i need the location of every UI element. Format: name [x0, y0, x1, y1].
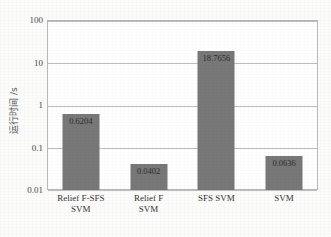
- bar-chart-figure: 运行时间 /s 1001010.10.01 0.62040.040218.765…: [0, 0, 331, 237]
- bar-slot: 0.0402: [115, 20, 183, 190]
- x-axis-tick-line1: SVM: [274, 193, 294, 203]
- y-axis-tick-label: 1: [0, 101, 43, 110]
- x-axis-tick-label: SVM: [250, 193, 318, 204]
- x-axis-tick-line2: SVM: [47, 204, 115, 215]
- bar[interactable]: [198, 51, 235, 190]
- x-axis-tick-line1: Relief F: [134, 193, 163, 203]
- y-axis-tick-label: 0.1: [0, 144, 43, 153]
- bar-slot: 0.0636: [250, 20, 318, 190]
- bar-series: 0.62040.040218.76560.0636: [47, 20, 318, 190]
- bar-value-label: 0.0636: [272, 159, 295, 168]
- x-axis-tick-label: Relief FSVM: [115, 193, 183, 215]
- bar-value-label: 18.7656: [203, 54, 231, 63]
- x-axis-tick-label: SFS SVM: [183, 193, 251, 204]
- gridline: [48, 190, 317, 191]
- x-axis-tick-label: Relief F-SFSSVM: [47, 193, 115, 215]
- bar-value-label: 0.0402: [137, 167, 160, 176]
- y-axis-tick-label: 100: [0, 16, 43, 25]
- x-axis-tick-line1: SFS SVM: [198, 193, 235, 203]
- y-axis-tick-label: 0.01: [0, 186, 43, 195]
- x-axis-tick-line1: Relief F-SFS: [57, 193, 104, 203]
- bar-slot: 18.7656: [183, 20, 251, 190]
- x-axis-tick-line2: SVM: [115, 204, 183, 215]
- y-axis-tick-label: 10: [0, 59, 43, 68]
- bar-value-label: 0.6204: [69, 117, 92, 126]
- bar-slot: 0.6204: [47, 20, 115, 190]
- x-axis-ticks: Relief F-SFSSVMRelief FSVMSFS SVMSVM: [47, 193, 318, 233]
